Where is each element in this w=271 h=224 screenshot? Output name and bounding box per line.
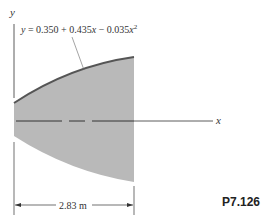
leader-line — [72, 37, 84, 70]
x-axis-label: x — [215, 114, 221, 126]
dimension-label: 2.83 m — [59, 200, 87, 211]
arrow-right-icon — [127, 203, 133, 207]
figure-canvas: y x y = 0.350 + 0.435x − 0.035x2 2.83 m … — [0, 0, 271, 224]
y-axis-label: y — [9, 6, 15, 18]
problem-id: P7.126 — [222, 195, 260, 209]
arrow-left-icon — [15, 203, 21, 207]
equation-label: y = 0.350 + 0.435x − 0.035x2 — [20, 23, 138, 35]
diagram-svg: y x y = 0.350 + 0.435x − 0.035x2 2.83 m — [0, 0, 271, 224]
shaded-area — [14, 57, 134, 182]
